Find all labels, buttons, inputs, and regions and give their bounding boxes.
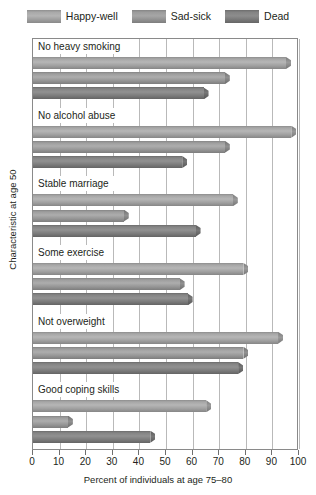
plot-area: No heavy smokingNo alcohol abuseStable m… xyxy=(32,38,298,450)
bar-body xyxy=(33,87,204,99)
bar-body xyxy=(33,416,68,428)
bar-body xyxy=(33,57,286,69)
x-axis-tick-labels: 0102030405060708090100 xyxy=(32,456,298,470)
bar-happy-well xyxy=(33,400,211,412)
legend-label-dead: Dead xyxy=(264,10,289,22)
bar-body xyxy=(33,400,206,412)
bar-body xyxy=(33,141,225,153)
bar-body xyxy=(33,194,233,206)
x-tick-70 xyxy=(218,450,219,455)
bar-dead xyxy=(33,156,187,168)
x-tick-10 xyxy=(59,450,60,455)
bar-cap xyxy=(225,72,230,84)
x-tick-label-60: 60 xyxy=(186,456,197,467)
bar-group: No heavy smoking xyxy=(33,39,297,108)
x-tick-label-100: 100 xyxy=(290,456,307,467)
bar-dead xyxy=(33,87,209,99)
bar-body xyxy=(33,225,196,237)
x-tick-label-30: 30 xyxy=(106,456,117,467)
x-tick-30 xyxy=(112,450,113,455)
legend-item-sad-sick: Sad-sick xyxy=(132,10,211,23)
x-tick-label-20: 20 xyxy=(80,456,91,467)
x-tick-label-70: 70 xyxy=(213,456,224,467)
bar-happy-well xyxy=(33,194,238,206)
bar-body xyxy=(33,362,238,374)
bar-body xyxy=(33,210,124,222)
bar-body xyxy=(33,156,182,168)
x-tick-label-0: 0 xyxy=(29,456,35,467)
bar-cap xyxy=(278,332,283,344)
bar-sad-sick xyxy=(33,210,129,222)
bar-cap xyxy=(238,362,243,374)
x-axis-title: Percent of individuals at age 75–80 xyxy=(0,474,316,485)
bar-cap xyxy=(124,210,129,222)
category-label: No alcohol abuse xyxy=(34,108,120,123)
legend-label-happy-well: Happy-well xyxy=(66,10,118,22)
bar-body xyxy=(33,293,188,305)
bar-sad-sick xyxy=(33,72,230,84)
x-tick-0 xyxy=(32,450,33,455)
gridline-100 xyxy=(299,39,300,449)
bar-cap xyxy=(243,347,248,359)
bar-cap xyxy=(150,431,155,443)
x-tick-20 xyxy=(85,450,86,455)
x-tick-100 xyxy=(298,450,299,455)
bar-cap xyxy=(233,194,238,206)
bar-group: Some exercise xyxy=(33,245,297,314)
bar-group: No alcohol abuse xyxy=(33,108,297,177)
x-tick-90 xyxy=(271,450,272,455)
x-tick-label-80: 80 xyxy=(239,456,250,467)
bar-sad-sick xyxy=(33,416,73,428)
bar-cap xyxy=(182,156,187,168)
bar-body xyxy=(33,263,243,275)
bar-body xyxy=(33,431,150,443)
bar-cap xyxy=(68,416,73,428)
bar-groups: No heavy smokingNo alcohol abuseStable m… xyxy=(33,39,297,449)
bar-cap xyxy=(196,225,201,237)
bar-sad-sick xyxy=(33,141,230,153)
bar-cap xyxy=(188,293,193,305)
x-tick-label-90: 90 xyxy=(266,456,277,467)
bar-cap xyxy=(286,57,291,69)
bar-dead xyxy=(33,362,243,374)
category-label: Good coping skills xyxy=(34,382,124,397)
bar-cap xyxy=(204,87,209,99)
bar-happy-well xyxy=(33,263,248,275)
x-tick-label-50: 50 xyxy=(159,456,170,467)
category-label: No heavy smoking xyxy=(34,39,125,54)
bar-group: Stable marriage xyxy=(33,176,297,245)
bar-cap xyxy=(225,141,230,153)
legend-swatch-sad-sick xyxy=(132,10,166,23)
y-axis-title: Characteristic at age 50 xyxy=(7,120,18,320)
x-tick-label-40: 40 xyxy=(133,456,144,467)
legend-item-happy-well: Happy-well xyxy=(27,10,118,23)
legend-swatch-dead xyxy=(225,10,259,23)
x-tick-60 xyxy=(192,450,193,455)
category-label: Some exercise xyxy=(34,245,109,260)
bar-dead xyxy=(33,225,201,237)
bar-happy-well xyxy=(33,57,291,69)
x-tick-80 xyxy=(245,450,246,455)
bar-body xyxy=(33,332,278,344)
bar-body xyxy=(33,347,243,359)
bar-cap xyxy=(291,126,296,138)
category-label: Not overweight xyxy=(34,314,110,329)
bar-sad-sick xyxy=(33,278,185,290)
bar-dead xyxy=(33,431,155,443)
x-tick-50 xyxy=(165,450,166,455)
legend-item-dead: Dead xyxy=(225,10,289,23)
bar-cap xyxy=(180,278,185,290)
x-tick-40 xyxy=(138,450,139,455)
category-label: Stable marriage xyxy=(34,176,114,191)
bar-group: Not overweight xyxy=(33,314,297,383)
legend-swatch-happy-well xyxy=(27,10,61,23)
chart-legend: Happy-well Sad-sick Dead xyxy=(0,6,316,26)
bar-group: Good coping skills xyxy=(33,382,297,451)
x-tick-label-10: 10 xyxy=(53,456,64,467)
bar-body xyxy=(33,126,291,138)
bar-body xyxy=(33,72,225,84)
bar-cap xyxy=(206,400,211,412)
bar-happy-well xyxy=(33,332,283,344)
bar-dead xyxy=(33,293,193,305)
bar-body xyxy=(33,278,180,290)
